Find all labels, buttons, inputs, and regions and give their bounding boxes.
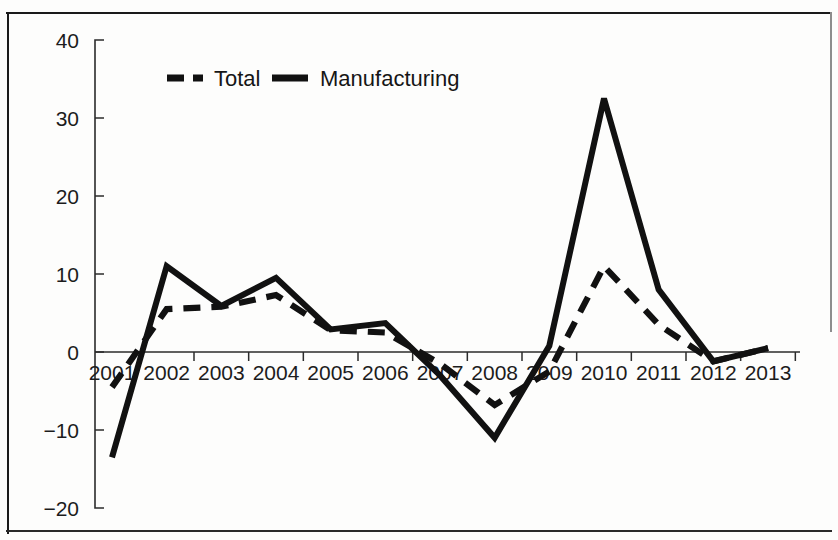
- series-line-manufacturing: [112, 99, 768, 458]
- legend-label-manufacturing: Manufacturing: [320, 66, 459, 91]
- x-axis-tick-label: 2013: [745, 361, 792, 384]
- y-axis-tick-label: −20: [43, 497, 79, 520]
- y-axis-tick-labels: 403020100−10−20: [43, 29, 79, 520]
- x-axis-tick-label: 2002: [143, 361, 190, 384]
- series-group: [112, 99, 768, 458]
- y-axis-tick-label: 30: [56, 107, 79, 130]
- y-axis-tick-label: 10: [56, 263, 79, 286]
- x-axis-tick-label: 2011: [636, 361, 681, 384]
- chart-legend: Total Manufacturing: [167, 66, 459, 91]
- y-axis-tick-label: 0: [67, 341, 79, 364]
- x-axis-tick-label: 2001: [89, 361, 136, 384]
- x-axis-tick-label: 2004: [253, 361, 300, 384]
- y-axis-tick-label: −10: [43, 419, 79, 442]
- y-axis-tick-label: 20: [56, 185, 79, 208]
- chart-page: 403020100−10−20 200120022003200420052006…: [0, 0, 838, 540]
- x-axis-tick-label: 2006: [362, 361, 409, 384]
- x-axis-tick-label: 2005: [307, 361, 354, 384]
- x-axis-tick-label: 2008: [471, 361, 518, 384]
- x-axis-tick-label: 2003: [198, 361, 245, 384]
- line-chart: 403020100−10−20 200120022003200420052006…: [0, 0, 838, 540]
- series-line-total: [112, 266, 768, 405]
- legend-label-total: Total: [214, 66, 260, 91]
- y-axis: 403020100−10−20: [43, 29, 104, 520]
- chart-svg: 403020100−10−20 200120022003200420052006…: [0, 0, 838, 540]
- y-axis-tick-label: 40: [56, 29, 79, 52]
- x-axis-tick-label: 2010: [581, 361, 628, 384]
